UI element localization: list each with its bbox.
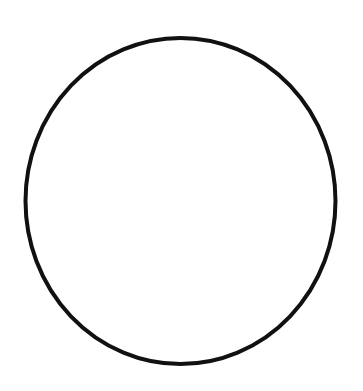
circle-outline xyxy=(26,38,336,364)
canvas xyxy=(0,0,363,391)
